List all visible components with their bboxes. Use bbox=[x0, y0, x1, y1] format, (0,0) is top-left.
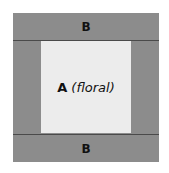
bottom-band-label: B bbox=[81, 143, 90, 155]
center-square-a: A (floral) bbox=[41, 41, 131, 133]
center-label: A bbox=[57, 80, 67, 95]
quilt-block: B A (floral) B bbox=[13, 13, 159, 162]
bottom-band-b: B bbox=[13, 134, 159, 163]
top-band-label: B bbox=[81, 21, 90, 33]
top-band-b: B bbox=[13, 13, 159, 41]
center-fabric-note: (floral) bbox=[71, 80, 114, 95]
